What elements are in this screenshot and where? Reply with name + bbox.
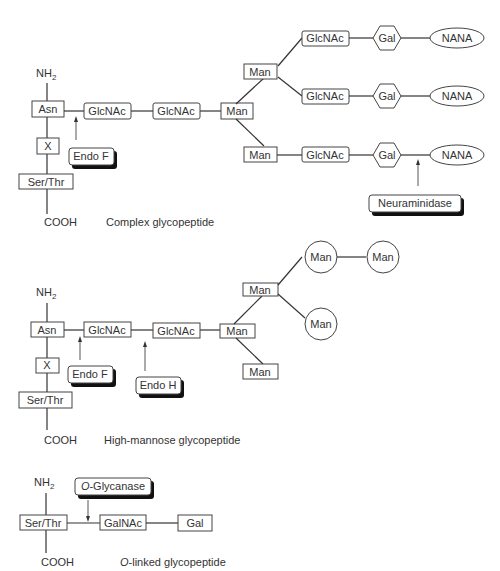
svg-text:X: X <box>43 359 51 371</box>
svg-text:Gal: Gal <box>378 90 395 102</box>
svg-text:GlcNAc: GlcNAc <box>157 105 195 117</box>
svg-text:Gal: Gal <box>186 517 203 529</box>
asn-label: Asn <box>39 103 58 115</box>
svg-text:Man: Man <box>226 105 247 117</box>
svg-text:GlcNAc: GlcNAc <box>306 32 344 44</box>
svg-text:Endo F: Endo F <box>72 368 108 380</box>
endo-f-enzyme-label: Endo F <box>68 366 116 387</box>
svg-text:GlcNAc: GlcNAc <box>157 325 195 337</box>
nh2-label: NH2 <box>34 476 55 491</box>
caption: O-linked glycopeptide <box>120 556 226 568</box>
svg-text:GlcNAc: GlcNAc <box>306 90 344 102</box>
cooh-label: COOH <box>44 434 77 446</box>
serthr-label: Ser/Thr <box>28 176 65 188</box>
cooh-label: COOH <box>41 556 74 568</box>
x-label: X <box>44 140 52 152</box>
svg-text:NANA: NANA <box>442 90 473 102</box>
svg-text:Man: Man <box>310 318 331 330</box>
nh2-label: NH2 <box>36 67 57 82</box>
svg-text:Man: Man <box>249 366 270 378</box>
svg-text:GlcNAc: GlcNAc <box>88 105 126 117</box>
svg-text:Asn: Asn <box>38 324 57 336</box>
svg-text:Gal: Gal <box>378 32 395 44</box>
svg-text:Man: Man <box>249 149 270 161</box>
nh2-label: NH2 <box>36 286 57 301</box>
cooh-label: COOH <box>44 216 77 228</box>
svg-text:Neuraminidase: Neuraminidase <box>378 197 452 209</box>
high-mannose-glycopeptide: NH2 Asn X Ser/Thr COOH High-mannose glyc… <box>19 241 399 446</box>
endo-f-enzyme-label: Endo F <box>69 148 117 169</box>
svg-text:GlcNAc: GlcNAc <box>306 149 344 161</box>
svg-text:Man: Man <box>249 66 270 78</box>
svg-text:NANA: NANA <box>442 32 473 44</box>
neuraminidase-enzyme-label: Neuraminidase <box>369 195 464 216</box>
caption: High-mannose glycopeptide <box>104 434 240 446</box>
svg-text:Endo F: Endo F <box>73 150 109 162</box>
o-linked-glycopeptide: NH2 Ser/Thr COOH O-linked glycopeptide G… <box>20 476 226 568</box>
svg-text:Ser/Thr: Ser/Thr <box>25 517 62 529</box>
svg-text:Ser/Thr: Ser/Thr <box>27 394 64 406</box>
svg-text:Man: Man <box>372 251 393 263</box>
svg-text:O-Glycanase: O-Glycanase <box>81 480 145 492</box>
endo-h-enzyme-label: Endo H <box>136 377 184 398</box>
svg-text:Man: Man <box>310 251 331 263</box>
svg-text:Man: Man <box>226 325 247 337</box>
svg-text:GlcNAc: GlcNAc <box>88 324 126 336</box>
caption: Complex glycopeptide <box>106 216 214 228</box>
complex-glycopeptide: NH2 Asn X Ser/Thr COOH Complex glycopept… <box>19 26 484 228</box>
svg-text:Gal: Gal <box>378 149 395 161</box>
svg-text:NANA: NANA <box>442 149 473 161</box>
o-glycanase-enzyme-label: O-Glycanase <box>75 478 154 499</box>
svg-text:GalNAc: GalNAc <box>104 517 142 529</box>
svg-text:Endo H: Endo H <box>140 379 177 391</box>
svg-text:Man: Man <box>249 284 270 296</box>
